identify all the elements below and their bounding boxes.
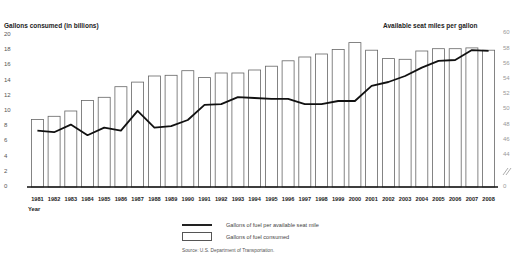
x-tick-2002: 2002 — [379, 196, 397, 202]
legend-bar-label: Gallons of fuel consumed — [226, 234, 289, 240]
bar-1995 — [265, 66, 277, 187]
right-tick-50: 50 — [503, 105, 510, 111]
bar-2005 — [433, 49, 445, 187]
legend-line-swatch-icon — [182, 224, 212, 226]
bar-2002 — [382, 59, 394, 187]
x-tick-2000: 2000 — [346, 196, 364, 202]
legend-bar-swatch-icon — [182, 232, 212, 241]
legend-item-bar: Gallons of fuel consumed — [182, 232, 289, 241]
right-tick-46: 46 — [503, 136, 510, 142]
x-tick-1987: 1987 — [129, 196, 147, 202]
bar-1990 — [182, 71, 194, 187]
bar-1989 — [165, 75, 177, 187]
bar-1988 — [148, 76, 160, 187]
left-tick-2: 2 — [4, 168, 20, 174]
right-tick-60: 60 — [503, 29, 510, 35]
x-tick-1998: 1998 — [313, 196, 331, 202]
right-tick-58: 58 — [503, 45, 510, 51]
left-tick-20: 20 — [4, 31, 20, 37]
bar-2006 — [449, 49, 461, 187]
bar-1993 — [232, 73, 244, 187]
right-tick-44: 44 — [503, 151, 510, 157]
bar-1983 — [65, 111, 77, 187]
x-axis-title: Year — [28, 206, 40, 212]
x-tick-1988: 1988 — [145, 196, 163, 202]
x-tick-1986: 1986 — [112, 196, 130, 202]
right-tick-56: 56 — [503, 60, 510, 66]
bar-2000 — [349, 43, 361, 187]
x-tick-2001: 2001 — [363, 196, 381, 202]
x-tick-1995: 1995 — [262, 196, 280, 202]
x-tick-1991: 1991 — [196, 196, 214, 202]
bar-1998 — [316, 54, 328, 187]
x-tick-1982: 1982 — [45, 196, 63, 202]
legend-line-label: Gallons of fuel per available seat mile — [226, 222, 319, 228]
x-tick-2008: 2008 — [480, 196, 498, 202]
x-tick-1983: 1983 — [62, 196, 80, 202]
left-tick-0: 0 — [4, 183, 20, 189]
x-tick-1994: 1994 — [246, 196, 264, 202]
bar-1994 — [249, 70, 261, 187]
bar-1981 — [31, 119, 43, 187]
bar-2001 — [366, 50, 378, 187]
bar-2008 — [483, 50, 495, 187]
x-tick-2004: 2004 — [413, 196, 431, 202]
left-tick-16: 16 — [4, 61, 20, 67]
right-tick-48: 48 — [503, 121, 510, 127]
bar-1991 — [199, 78, 211, 187]
axis-break-icon — [503, 168, 511, 175]
x-tick-2007: 2007 — [463, 196, 481, 202]
bar-1984 — [82, 100, 94, 187]
right-tick-52: 52 — [503, 90, 510, 96]
bar-1982 — [48, 116, 60, 187]
x-tick-1981: 1981 — [28, 196, 46, 202]
x-tick-1997: 1997 — [296, 196, 314, 202]
bar-1997 — [299, 57, 311, 187]
left-tick-10: 10 — [4, 107, 20, 113]
bar-2007 — [466, 48, 478, 187]
x-tick-1999: 1999 — [329, 196, 347, 202]
x-tick-2006: 2006 — [446, 196, 464, 202]
left-tick-18: 18 — [4, 46, 20, 52]
left-tick-6: 6 — [4, 137, 20, 143]
legend-item-line: Gallons of fuel per available seat mile — [182, 222, 319, 228]
left-tick-12: 12 — [4, 92, 20, 98]
source-note: Source: U.S. Department of Transportatio… — [182, 248, 274, 253]
x-tick-2005: 2005 — [430, 196, 448, 202]
bar-1996 — [282, 61, 294, 187]
left-tick-8: 8 — [4, 122, 20, 128]
x-tick-1993: 1993 — [229, 196, 247, 202]
left-tick-4: 4 — [4, 153, 20, 159]
x-tick-1985: 1985 — [95, 196, 113, 202]
bar-2004 — [416, 51, 428, 187]
right-tick-0: 0 — [503, 183, 506, 189]
bar-1999 — [332, 49, 344, 187]
bar-1992 — [215, 73, 227, 187]
right-tick-54: 54 — [503, 75, 510, 81]
x-tick-1984: 1984 — [79, 196, 97, 202]
x-tick-1989: 1989 — [162, 196, 180, 202]
bar-1986 — [115, 87, 127, 187]
x-tick-1990: 1990 — [179, 196, 197, 202]
left-tick-14: 14 — [4, 77, 20, 83]
x-tick-1992: 1992 — [212, 196, 230, 202]
bar-1987 — [132, 82, 144, 187]
x-tick-1996: 1996 — [279, 196, 297, 202]
bar-1985 — [98, 97, 110, 187]
x-tick-2003: 2003 — [396, 196, 414, 202]
